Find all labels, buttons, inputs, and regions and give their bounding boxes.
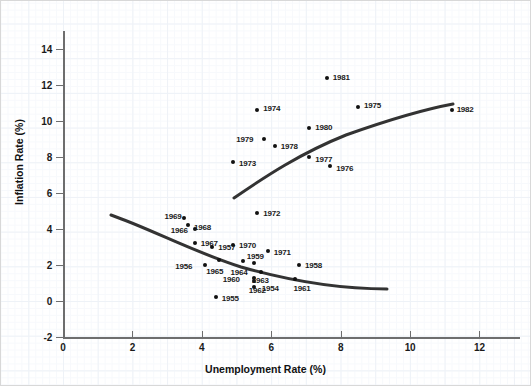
x-tick-mark [410,331,411,337]
data-point [325,76,329,80]
data-point [328,164,332,168]
x-tick-mark [479,331,480,337]
data-point-label: 1968 [194,223,211,232]
data-point-label: 1970 [239,241,256,250]
data-point [297,263,301,267]
data-point-label: 1958 [305,261,322,270]
data-point [293,277,297,281]
data-point-label: 1965 [206,267,223,276]
y-tick-mark [56,193,63,194]
y-tick-label: 6 [30,188,52,199]
data-point [262,137,266,141]
data-point [182,216,186,220]
phillips-curve-scatter-chart: 1954195519561957195819591960196119621963… [0,0,531,386]
data-point [255,211,259,215]
data-point-label: 1972 [263,209,280,218]
data-point-label: 1981 [333,73,350,82]
data-point [266,249,270,253]
x-tick-mark [132,331,133,337]
y-tick-label: 14 [30,44,52,55]
x-tick-mark [202,331,203,337]
data-point [217,258,221,262]
data-point [231,243,235,247]
data-point [450,108,454,112]
data-point-label: 1955 [222,294,239,303]
data-point-label: 1964 [230,268,247,277]
x-tick-label: 6 [269,342,274,353]
y-tick-mark [56,85,63,86]
data-point-label: 1973 [239,159,256,168]
y-axis-title: Inflation Rate (%) [13,97,25,227]
x-tick-mark [271,331,272,337]
short-run-phillips-curve-1973-1982 [234,104,453,198]
data-point-label: 1959 [247,252,264,261]
data-point [231,160,235,164]
y-tick-mark [56,121,63,122]
data-point [252,261,256,265]
data-point [356,105,360,109]
y-axis-line [63,31,65,339]
data-point-label: 1962 [249,286,266,295]
data-point-label: 1961 [293,284,310,293]
data-point [255,108,259,112]
x-axis-line [63,337,520,339]
data-point-label: 1980 [315,123,332,132]
y-tick-label: 10 [30,116,52,127]
data-point [307,126,311,130]
y-tick-mark [56,229,63,230]
data-point-label: 1974 [263,104,280,113]
data-point-label: 1976 [336,164,353,173]
data-point-label: 1963 [252,276,269,285]
data-point-label: 1967 [201,239,218,248]
y-tick-label: 8 [30,152,52,163]
x-tick-mark [341,331,342,337]
data-point [186,223,190,227]
data-point [259,270,263,274]
y-tick-label: 2 [30,260,52,271]
y-tick-mark [56,301,63,302]
y-tick-label: 4 [30,224,52,235]
y-tick-label: -2 [30,332,52,343]
x-axis-title: Unemployment Rate (%) [1,363,530,375]
data-point-label: 1977 [315,155,332,164]
data-point [273,144,277,148]
x-tick-label: 2 [130,342,135,353]
data-point [193,241,197,245]
x-tick-mark [63,331,64,337]
data-point-label: 1975 [364,101,381,110]
x-tick-label: 10 [405,342,416,353]
y-tick-mark [56,157,63,158]
x-tick-label: 8 [338,342,343,353]
data-point-label: 1956 [175,262,192,271]
x-tick-label: 0 [60,342,65,353]
data-point [241,259,245,263]
x-tick-label: 12 [474,342,485,353]
y-tick-mark [56,49,63,50]
trend-curves-layer [1,1,531,386]
x-tick-label: 4 [199,342,204,353]
y-tick-mark [56,337,63,338]
y-tick-label: 0 [30,296,52,307]
data-point-label: 1966 [171,226,188,235]
data-point-label: 1979 [236,135,253,144]
data-point [214,295,218,299]
y-tick-mark [56,265,63,266]
data-point [307,155,311,159]
data-point-label: 1982 [457,105,474,114]
y-tick-label: 12 [30,80,52,91]
data-point-label: 1969 [164,212,181,221]
data-point-label: 1971 [274,248,291,257]
data-point-label: 1978 [281,142,298,151]
